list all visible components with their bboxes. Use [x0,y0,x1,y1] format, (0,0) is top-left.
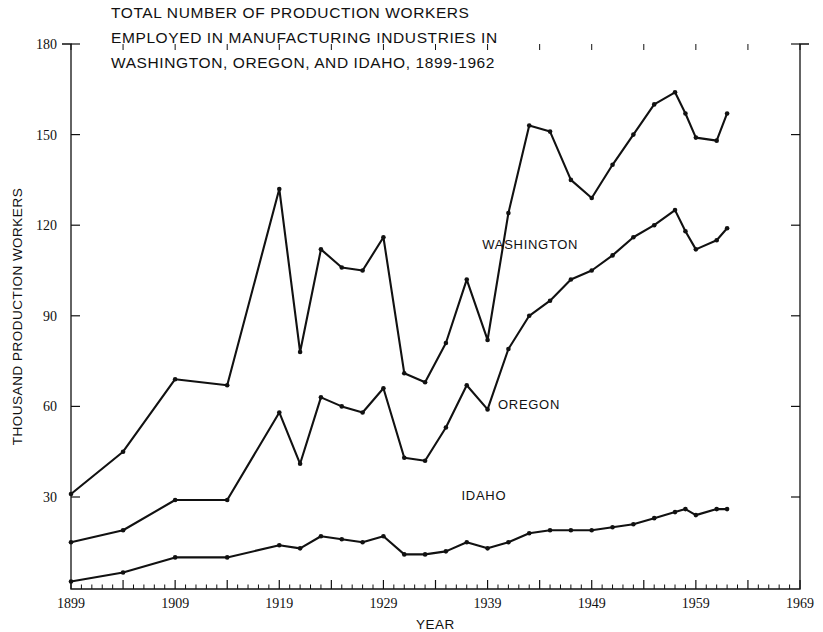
data-point [423,552,428,557]
x-axis-tick-labels: 18991909191919291939194919591969 [57,596,814,611]
data-point [725,226,730,231]
series-inline-labels: WASHINGTONOREGONIDAHO [462,237,579,503]
data-point [444,425,449,430]
x-tick-label: 1939 [474,596,502,611]
data-point [225,383,230,388]
data-point [423,380,428,385]
series-washington [69,90,730,496]
data-point [173,555,178,560]
x-tick-label: 1899 [57,596,85,611]
series-label-idaho: IDAHO [462,488,507,503]
data-point [298,350,303,355]
data-point [121,528,126,533]
data-point [683,507,688,512]
data-point [652,102,657,107]
data-point [610,163,615,168]
y-axis-ticks [71,44,800,497]
data-point [694,513,699,518]
data-point [610,525,615,530]
series-line-oregon [71,210,727,542]
data-point [694,135,699,140]
y-axis-tick-labels: 306090120150180 [36,37,57,505]
data-point [381,386,386,391]
data-point [548,528,553,533]
data-point [381,235,386,240]
data-point [319,534,324,539]
data-point [548,298,553,303]
data-point [402,371,407,376]
y-tick-label: 150 [36,128,57,143]
data-point [683,229,688,234]
data-point [569,528,574,533]
data-point [444,549,449,554]
chart-axes [62,44,809,589]
data-point [673,208,678,213]
x-tick-label: 1919 [265,596,293,611]
data-point [277,543,282,548]
series-label-washington: WASHINGTON [482,237,578,252]
data-point [339,537,344,542]
data-point [485,407,490,412]
data-point [464,277,469,282]
data-point [652,516,657,521]
axis-frame [62,44,809,589]
data-point [725,111,730,116]
data-point [319,395,324,400]
data-point [319,247,324,252]
y-tick-label: 30 [43,490,57,505]
data-point [69,540,74,545]
data-point [121,570,126,575]
data-point [506,347,511,352]
data-point [339,404,344,409]
data-point [277,410,282,415]
data-point [548,129,553,134]
series-oregon [69,208,730,545]
data-point [225,555,230,560]
data-point [485,546,490,551]
x-axis-title: YEAR [416,617,455,632]
data-point [569,277,574,282]
data-point [527,531,532,536]
data-point [694,247,699,252]
data-point [725,507,730,512]
x-tick-label: 1949 [578,596,606,611]
data-point [173,377,178,382]
x-tick-label: 1959 [682,596,710,611]
data-point [444,341,449,346]
y-tick-label: 60 [43,399,57,414]
data-point [423,458,428,463]
data-point [527,314,532,319]
data-point [673,90,678,95]
data-point [652,223,657,228]
series-idaho [69,507,730,584]
data-point [714,238,719,243]
data-point [402,552,407,557]
data-point [506,211,511,216]
data-point [589,528,594,533]
x-tick-label: 1969 [786,596,814,611]
chart-title-line: EMPLOYED IN MANUFACTURING INDUSTRIES IN [111,29,498,46]
chart-title: TOTAL NUMBER OF PRODUCTION WORKERSEMPLOY… [111,4,498,71]
y-tick-label: 120 [36,218,57,233]
data-point [683,111,688,116]
data-point [589,196,594,201]
x-tick-label: 1909 [161,596,189,611]
series-label-oregon: OREGON [498,397,560,412]
production-workers-line-chart: TOTAL NUMBER OF PRODUCTION WORKERSEMPLOY… [0,0,823,632]
data-point [610,253,615,258]
data-point [277,187,282,192]
chart-title-line: TOTAL NUMBER OF PRODUCTION WORKERS [111,4,470,21]
data-point [464,540,469,545]
data-point [173,498,178,503]
data-series [69,90,730,584]
data-point [360,540,365,545]
data-point [69,492,74,497]
data-point [714,507,719,512]
series-line-idaho [71,509,727,581]
data-point [402,455,407,460]
data-point [121,449,126,454]
y-axis-title: THOUSAND PRODUCTION WORKERS [10,188,25,445]
series-line-washington [71,92,727,494]
chart-figure: TOTAL NUMBER OF PRODUCTION WORKERSEMPLOY… [0,0,823,632]
data-point [506,540,511,545]
